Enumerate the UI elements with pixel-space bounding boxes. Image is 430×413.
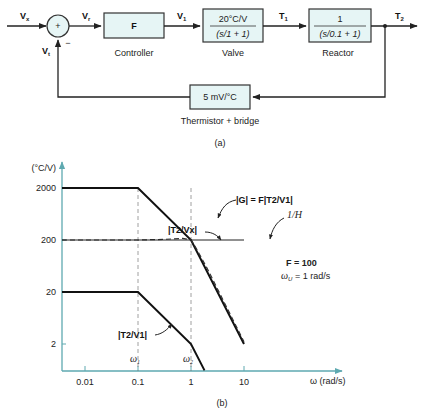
y-tick-label: 20: [46, 287, 56, 297]
valve-label: Valve: [222, 48, 244, 58]
x-tick-label: 0.01: [76, 377, 94, 387]
annotation-T2V1-leader: [155, 324, 172, 335]
param-wU: ωU = 1 rad/s: [281, 270, 331, 282]
x-tick-label: 0.1: [132, 377, 145, 387]
output-signal-label: T2: [395, 11, 405, 22]
series-g-f-t2-v1: [62, 188, 244, 344]
caption-a: (a): [215, 138, 226, 148]
bode-chart: (°C/V) ω (rad/s) 2000200202 0.010.1110 ω…: [31, 162, 345, 408]
x-axis-label: ω (rad/s): [310, 376, 346, 386]
block-diagram: Vx + − Vr F Controller V1 20°C/V (s/1 + …: [7, 9, 417, 148]
param-F: F = 100: [286, 258, 317, 268]
input-signal-label: Vx: [20, 11, 30, 22]
annotation-invH: 1/H: [287, 209, 303, 220]
y-tick-label: 2000: [36, 183, 56, 193]
annotation-T2V1: |T2/V1|: [118, 330, 147, 340]
feedback-signal-label: Vt: [42, 46, 50, 57]
annotation-G-leader: [218, 200, 236, 218]
controller-output-label: V1: [177, 11, 187, 22]
annotation-invH-leader: [270, 218, 284, 239]
annotation-T2Vx: |T2/Vx|: [168, 225, 197, 235]
valve-output-label: T1: [279, 11, 289, 22]
reactor-numerator: 1: [337, 14, 342, 24]
guide-label: ω1: [130, 353, 140, 365]
summer-plus-sign: +: [55, 21, 60, 31]
error-signal-label: Vr: [82, 11, 91, 22]
controller-gain: F: [131, 21, 137, 31]
summer-minus-sign: −: [65, 38, 70, 48]
reactor-label: Reactor: [322, 48, 354, 58]
sensor-gain: 5 mV/°C: [203, 92, 237, 102]
valve-numerator: 20°C/V: [219, 14, 248, 24]
x-tick-label: 10: [239, 377, 249, 387]
annotation-T2Vx-leader: [205, 232, 221, 240]
figure-canvas: Vx + − Vr F Controller V1 20°C/V (s/1 + …: [0, 0, 430, 413]
annotation-G: |G| = F|T2/V1|: [236, 195, 293, 205]
sensor-label: Thermistor + bridge: [181, 116, 259, 126]
reactor-denominator: (s/0.1 + 1): [320, 29, 361, 39]
x-tick-label: 1: [188, 377, 193, 387]
controller-label: Controller: [114, 48, 153, 58]
guide-label: ω2: [183, 353, 193, 365]
caption-b: (b): [217, 398, 228, 408]
y-axis-label: (°C/V): [31, 163, 56, 173]
y-tick-label: 200: [41, 235, 56, 245]
valve-denominator: (s/1 + 1): [216, 29, 249, 39]
y-tick-label: 2: [51, 339, 56, 349]
